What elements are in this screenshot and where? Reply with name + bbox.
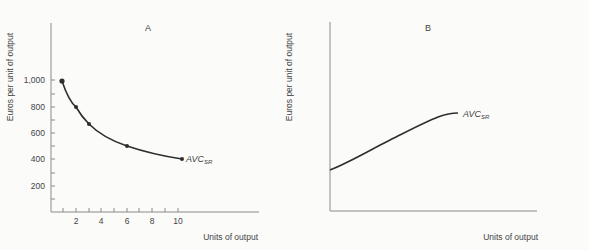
figure: A Euros per unit of output 200 400 600 8… — [0, 0, 589, 250]
panel-b-title: B — [425, 23, 431, 33]
panel-a-ytick-600: 600 — [31, 128, 45, 138]
panel-a-ytick-400: 400 — [31, 154, 45, 164]
panel-a-avc-curve — [62, 81, 182, 159]
panel-a-curve-label: AVCSR — [185, 154, 213, 165]
panel-b-curve-label: AVCSR — [462, 109, 490, 120]
panel-a-xtick-4: 4 — [99, 216, 104, 226]
panel-a-y-ticks — [51, 80, 55, 199]
panel-a-ytick-200: 200 — [31, 181, 45, 191]
panel-a-y-label: Euros per unit of output — [5, 32, 15, 121]
panel-a-xtick-10: 10 — [173, 216, 183, 226]
panel-a-ytick-800: 800 — [31, 102, 45, 112]
panel-a-xtick-6: 6 — [125, 216, 130, 226]
panel-a-data-points — [59, 78, 184, 161]
panel-a-xtick-2: 2 — [74, 216, 79, 226]
panel-a-xtick-8: 8 — [150, 216, 155, 226]
panel-a-title: A — [145, 23, 151, 33]
panel-b: B Euros per unit of output Units of outp… — [284, 22, 539, 242]
panel-a-ytick-1000: 1,000 — [24, 75, 46, 85]
panel-a-x-label: Units of output — [203, 232, 258, 242]
panel-b-avc-curve — [330, 113, 458, 170]
panel-b-y-label: Euros per unit of output — [284, 32, 294, 121]
panel-a: A Euros per unit of output 200 400 600 8… — [5, 23, 259, 242]
panel-b-x-label: Units of output — [483, 232, 538, 242]
panel-a-x-ticks — [63, 208, 178, 212]
